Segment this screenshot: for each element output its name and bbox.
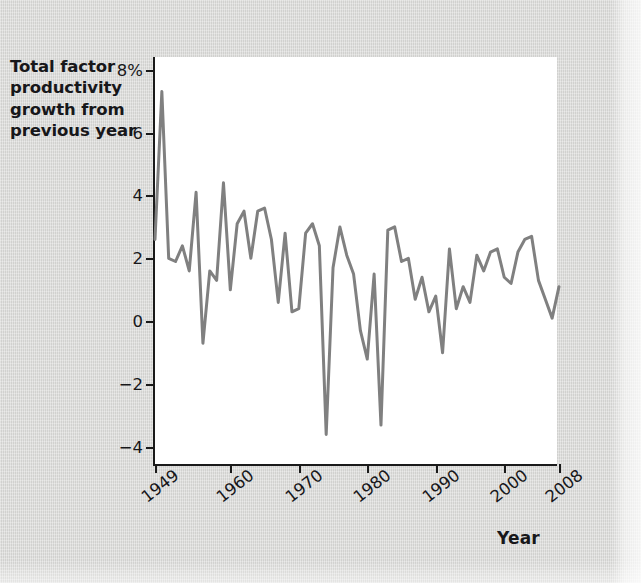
x-tick-label: 1990: [419, 466, 464, 507]
x-tick-label: 1960: [213, 466, 258, 507]
y-tick-mark: [146, 321, 155, 323]
y-tick-label: 2: [133, 249, 144, 268]
y-tick-label: 8%: [117, 60, 143, 79]
y-tick-mark: [146, 384, 155, 386]
plot-area: 8%6420−2−4 1949196019701980199020002008: [153, 57, 557, 466]
y-tick-label: 0: [133, 312, 144, 331]
x-tick-mark: [559, 464, 561, 473]
y-tick-mark: [146, 258, 155, 260]
x-tick-label: 2008: [542, 466, 587, 507]
x-tick-label: 1980: [350, 466, 395, 507]
y-tick-mark: [146, 133, 155, 135]
y-tick-label: 4: [133, 186, 144, 205]
page-edge-highlight-bottom: [0, 561, 641, 583]
x-tick-label: 1949: [138, 466, 183, 507]
page-edge-highlight-right: [611, 0, 641, 583]
y-tick-mark: [146, 70, 155, 72]
y-tick-mark: [146, 447, 155, 449]
y-axis-title-line-2: productivity: [10, 77, 150, 98]
y-tick-label: 6: [133, 123, 144, 142]
plot-inner: 8%6420−2−4 1949196019701980199020002008: [155, 57, 557, 464]
y-tick-mark: [146, 195, 155, 197]
y-axis-title-line-4: previous year: [10, 120, 150, 141]
y-tick-label: −2: [119, 375, 143, 394]
x-axis-title: Year: [497, 528, 540, 548]
data-series-line: [155, 57, 559, 466]
tfp-growth-line: [155, 92, 559, 435]
x-tick-label: 2000: [487, 466, 532, 507]
figure-container: Total factor productivity growth from pr…: [0, 0, 641, 583]
y-tick-label: −4: [119, 438, 143, 457]
x-tick-label: 1970: [282, 466, 327, 507]
y-axis-title-line-3: growth from: [10, 99, 150, 120]
